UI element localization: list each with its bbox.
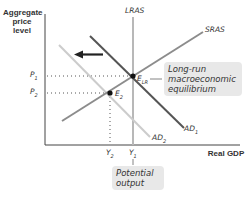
e2-label-sub: 2 — [120, 94, 123, 100]
p1-sub: 1 — [35, 75, 38, 81]
y1-sub: 1 — [134, 153, 137, 159]
ad2-label-base: AD — [152, 133, 163, 142]
lras-label: LRAS — [125, 6, 144, 15]
ad2-label: AD2 — [152, 133, 166, 144]
y-axis-title: Aggregate price level — [3, 8, 41, 35]
elr-label-sub: LR — [142, 79, 148, 85]
ad2-label-sub: 2 — [163, 138, 166, 144]
ad1-label-sub: 1 — [195, 129, 198, 135]
y2-tick-label: Y2 — [106, 148, 114, 159]
potential-line-2: output — [116, 178, 160, 188]
long-run-equilibrium-callout: Long-run macroeconomic equilibrium — [164, 62, 242, 96]
x-axis-title: Real GDP — [206, 149, 246, 158]
y1-tick-label: Y1 — [129, 148, 137, 159]
e2-label: E2 — [115, 89, 123, 100]
callout-line-2: macroeconomic — [168, 74, 238, 84]
p2-sub: 2 — [35, 92, 38, 98]
potential-output-callout: Potential output — [112, 166, 164, 190]
p1-tick-label: P1 — [30, 70, 38, 81]
callout-line-3: equilibrium — [168, 84, 238, 94]
y-axis-title-line-3: level — [3, 26, 41, 35]
potential-line-1: Potential — [116, 168, 160, 178]
elr-label: ELR — [137, 74, 148, 85]
y2-sub: 2 — [111, 153, 114, 159]
ad1-label: AD1 — [184, 124, 198, 135]
ad2-curve — [59, 45, 150, 137]
p2-tick-label: P2 — [30, 87, 38, 98]
elr-point — [130, 73, 135, 78]
y-axis-title-line-1: Aggregate — [3, 8, 41, 17]
e2-point — [107, 90, 112, 95]
sras-label: SRAS — [205, 25, 225, 34]
ad1-label-base: AD — [184, 124, 195, 133]
callout-line-1: Long-run — [168, 64, 238, 74]
y-axis-title-line-2: price — [3, 17, 41, 26]
shift-arrowhead — [74, 51, 83, 59]
